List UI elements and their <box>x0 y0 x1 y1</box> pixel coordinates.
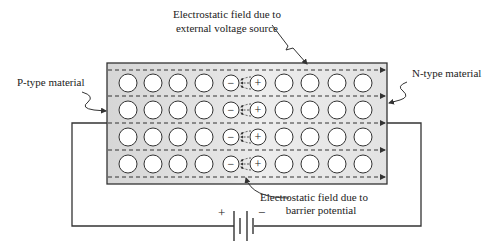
svg-text:+: + <box>255 157 262 171</box>
p-type-label: P-type material <box>17 76 85 88</box>
svg-text:+: + <box>255 103 262 117</box>
external-field-label-line1: Electrostatic field due to <box>173 8 281 20</box>
external-field-label-line2: external voltage source <box>176 22 278 34</box>
svg-text:−: − <box>228 157 235 171</box>
p-carrier <box>169 74 187 92</box>
n-type-pointer <box>389 82 407 103</box>
svg-text:+: + <box>255 76 262 90</box>
n-carrier <box>328 74 346 92</box>
barrier-field-label-line2: barrier potential <box>286 204 357 216</box>
battery-icon <box>234 211 253 241</box>
svg-text:+: + <box>255 130 262 144</box>
battery-minus-sign: − <box>258 205 265 220</box>
battery-plus-sign: + <box>218 205 225 220</box>
n-carrier <box>275 74 293 92</box>
p-carrier <box>144 74 162 92</box>
pn-junction-diagram: + − <box>0 0 493 251</box>
svg-text:−: − <box>228 130 235 144</box>
n-carrier <box>354 74 372 92</box>
p-carrier <box>195 74 213 92</box>
svg-text:−: − <box>228 103 235 117</box>
svg-text:−: − <box>228 76 235 90</box>
p-type-pointer <box>82 92 106 111</box>
n-carrier <box>301 74 319 92</box>
n-type-label: N-type material <box>412 67 481 79</box>
p-carrier <box>119 74 137 92</box>
